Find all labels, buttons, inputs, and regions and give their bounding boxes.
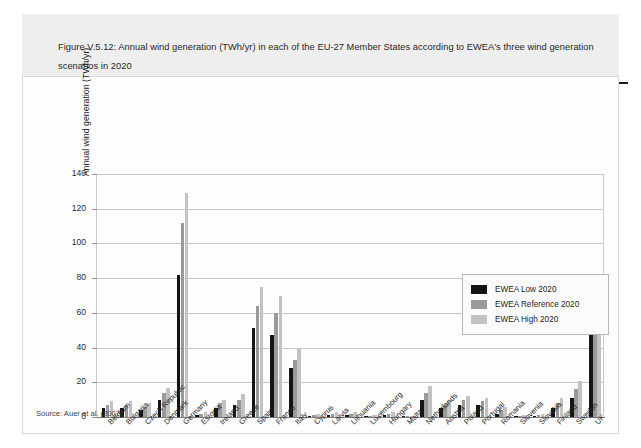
y-tick-mark	[92, 278, 97, 279]
legend-item-high: EWEA High 2020	[471, 312, 600, 326]
plot-area: 020406080100120140 BelgiumBulgariaCzech …	[97, 174, 603, 417]
bar-group	[139, 174, 151, 417]
bar-group	[252, 174, 264, 417]
bar-group	[289, 174, 301, 417]
chart-frame: 020406080100120140 BelgiumBulgariaCzech …	[22, 76, 619, 434]
y-tick-mark	[92, 382, 97, 383]
bar-group	[345, 174, 357, 417]
bar-group	[233, 174, 245, 417]
y-tick-mark	[92, 209, 97, 210]
figure-caption: Figure V.5.12: Annual wind generation (T…	[58, 38, 628, 76]
bar-group	[439, 174, 451, 417]
y-tick-label: 40	[46, 342, 86, 352]
y-axis-title: Annual wind generation (TWh/yr)	[81, 2, 91, 222]
bar-group	[383, 174, 395, 417]
bar-group	[270, 174, 282, 417]
legend-item-reference: EWEA Reference 2020	[471, 297, 600, 311]
bar-group	[364, 174, 376, 417]
y-tick-label: 60	[46, 307, 86, 317]
y-tick-label: 100	[46, 237, 86, 247]
legend-label-reference: EWEA Reference 2020	[495, 300, 579, 309]
bar	[256, 306, 260, 417]
legend-label-high: EWEA High 2020	[495, 315, 558, 324]
legend-swatch-reference	[471, 300, 487, 309]
bar-group	[214, 174, 226, 417]
y-tick-mark	[92, 243, 97, 244]
legend-item-low: EWEA Low 2020	[471, 282, 600, 296]
bar	[274, 313, 278, 417]
y-tick-mark	[92, 348, 97, 349]
y-tick-label: 120	[46, 203, 86, 213]
y-tick-label: 80	[46, 272, 86, 282]
bar	[279, 296, 283, 418]
y-tick-label: 140	[46, 168, 86, 178]
bar-group	[195, 174, 207, 417]
bar-group	[102, 174, 114, 417]
bar	[270, 335, 274, 417]
bar-group	[327, 174, 339, 417]
legend-label-low: EWEA Low 2020	[495, 285, 556, 294]
bar-group	[308, 174, 320, 417]
legend-swatch-low	[471, 285, 487, 294]
caption-band: Figure V.5.12: Annual wind generation (T…	[22, 14, 619, 76]
bar-group	[402, 174, 414, 417]
bar	[424, 393, 428, 417]
y-tick-mark	[92, 313, 97, 314]
bar-group	[158, 174, 170, 417]
y-tick-mark	[92, 174, 97, 175]
bar-group	[177, 174, 189, 417]
chart-legend: EWEA Low 2020 EWEA Reference 2020 EWEA H…	[462, 274, 609, 335]
source-note: Source: Auer et al. (2007)	[36, 409, 123, 418]
bar	[185, 193, 189, 417]
figure-page: Figure V.5.12: Annual wind generation (T…	[0, 0, 641, 448]
bar-group	[120, 174, 132, 417]
bar-group	[420, 174, 432, 417]
y-tick-label: 20	[46, 376, 86, 386]
legend-swatch-high	[471, 315, 487, 324]
bar	[297, 348, 301, 417]
bar	[260, 287, 264, 417]
